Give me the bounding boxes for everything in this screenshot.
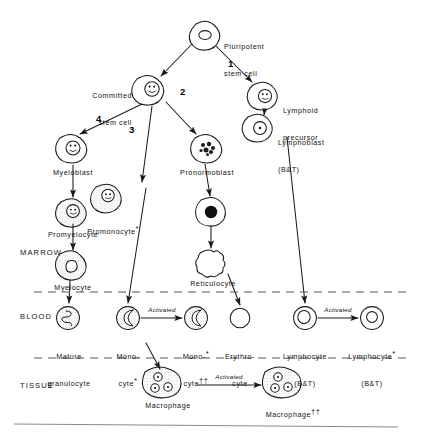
arrow-monocyte-macrophage <box>146 343 160 369</box>
label-myelocyte: Myelocyte <box>54 283 91 292</box>
arrow-label-activated-lymphocyte: Activated <box>324 306 351 313</box>
label-lymphocyte: Lymphocyte (B&T) <box>283 334 327 406</box>
pathway-number-1: 1 <box>228 58 233 69</box>
label-committed-stem-cell: Committed stem cell <box>74 73 132 145</box>
cell-monocyte <box>117 307 140 330</box>
arrow-pluripotent-committed <box>161 44 192 76</box>
cell-mature-granulocyte <box>57 307 80 330</box>
cell-lymphoblast <box>242 114 272 142</box>
cell-promonocyte <box>91 184 122 213</box>
cell-monocyte-activated <box>185 307 208 330</box>
arrow-label-activated-monocyte: Activated <box>148 306 175 313</box>
pathway-number-3: 3 <box>129 124 134 135</box>
label-reticulocyte: Reticulocyte <box>190 279 236 288</box>
cell-pluripotent <box>189 21 219 50</box>
label-macrophage: Macrophage <box>145 401 190 410</box>
label-lymphocyte-activated: Lymphocyte* (B&T) <box>348 334 395 406</box>
label-macrophage-activated: Macrophage†† <box>255 401 320 428</box>
zone-label-blood: BLOOD <box>20 312 52 321</box>
label-promyelocyte: Promyelocyte <box>48 230 98 239</box>
pathway-number-4: 4 <box>96 113 101 124</box>
zone-label-marrow: MARROW <box>20 248 62 257</box>
arrow-committed-pronormoblast <box>166 102 196 134</box>
label-monocyte-activated: Mono-* cyte†† <box>183 334 210 406</box>
label-monocyte: Mono- cyte* <box>116 334 139 406</box>
label-mature-granulocyte: Mature granulocyte <box>47 334 90 406</box>
arrow-promonocyte-monocyte <box>128 188 146 303</box>
cell-normoblast <box>196 197 226 226</box>
cell-lymphocyte-activated <box>361 307 384 330</box>
label-erythrocyte: Erythro- cyte <box>225 334 255 406</box>
zone-label-tissue: TISSUE <box>20 381 54 390</box>
arrow-committed-promonocyte <box>142 106 152 182</box>
diagram-canvas: Pluripotent stem cell Committed stem cel… <box>0 0 426 438</box>
cell-reticulocyte <box>196 250 225 277</box>
bottom-rule <box>14 424 398 427</box>
pathway-number-2: 2 <box>180 86 185 97</box>
label-myeloblast: Myeloblast <box>53 168 93 177</box>
cell-pronormoblast <box>191 135 222 164</box>
cell-macrophage <box>142 367 181 398</box>
label-lymphoblast: Lymphoblast (B&T) <box>278 120 325 192</box>
cell-lymphocyte <box>294 307 317 330</box>
cell-committed-stem <box>132 76 164 106</box>
label-pronormoblast: Pronormoblast <box>180 168 234 177</box>
arrow-label-activated-macrophage: Activated <box>215 373 242 380</box>
cell-erythrocyte <box>230 308 250 328</box>
